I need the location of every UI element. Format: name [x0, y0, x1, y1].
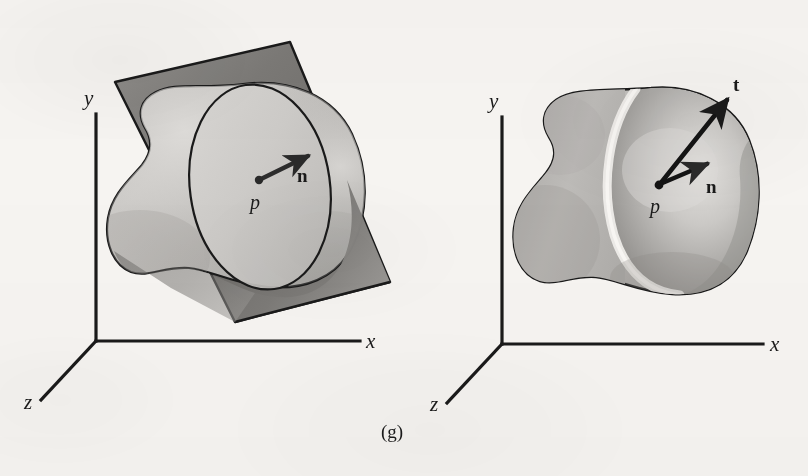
figure-svg	[0, 0, 808, 476]
right-point-p-dot	[655, 181, 664, 190]
left-y-axis-label: y	[84, 88, 93, 109]
left-z-axis-label: z	[24, 392, 32, 413]
figure-caption: (g)	[381, 422, 403, 441]
right-z-axis	[447, 344, 502, 403]
left-x-axis-label: x	[366, 331, 375, 352]
right-tangent-vector-label: t	[733, 75, 739, 94]
right-panel	[447, 80, 763, 403]
left-z-axis	[41, 341, 96, 400]
figure-container: y x z p n y x z p n t (g)	[0, 0, 808, 476]
right-z-axis-label: z	[430, 394, 438, 415]
left-point-p-dot	[255, 176, 263, 184]
left-normal-vector-label: n	[297, 166, 308, 185]
left-point-p-label: p	[250, 192, 260, 212]
left-panel	[41, 42, 390, 400]
right-y-axis-label: y	[489, 91, 498, 112]
right-normal-vector-label: n	[706, 177, 717, 196]
right-point-p-label: p	[650, 196, 660, 216]
right-x-axis-label: x	[770, 334, 779, 355]
